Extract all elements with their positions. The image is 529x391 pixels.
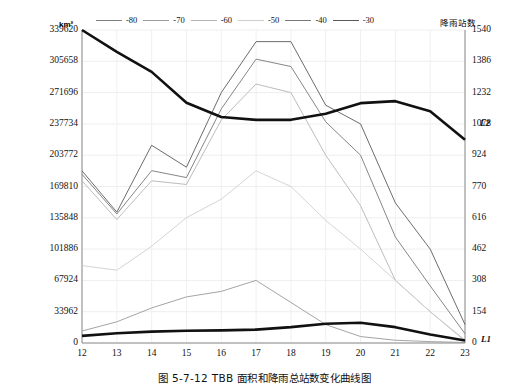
figure-caption: 图 5-7-12 TBB 面积和降雨总站数变化曲线图: [0, 370, 529, 385]
series-line-minus30: [82, 42, 465, 325]
series-line-L1: [82, 323, 465, 341]
chart-figure: -80-70-60-50-40-30 km² 降雨站数 339620305658…: [0, 0, 529, 391]
series-end-label-l2: L2: [480, 118, 490, 128]
series-line-L2: [82, 30, 465, 140]
series-end-label-l1: L1: [481, 334, 491, 344]
plot-area: [0, 0, 529, 391]
series-line-minus50: [82, 84, 465, 340]
series-line-minus40: [82, 59, 465, 334]
series-line-minus60: [82, 171, 465, 341]
